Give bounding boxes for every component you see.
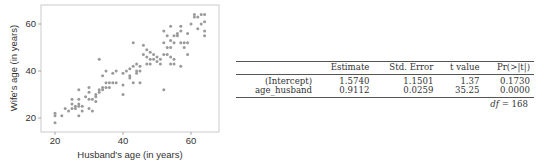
data-point <box>101 74 104 77</box>
data-point <box>166 46 169 49</box>
data-point <box>108 81 111 84</box>
header-t-value: t value <box>437 62 483 75</box>
data-point <box>105 81 108 84</box>
data-point <box>128 67 131 70</box>
data-point <box>125 70 128 73</box>
table-header-row: Estimate Std. Error t value Pr(>|t|) <box>236 62 534 75</box>
data-point <box>200 13 203 16</box>
data-point <box>152 58 155 61</box>
x-tick-label: 20 <box>50 135 61 146</box>
data-point <box>77 88 80 91</box>
data-point <box>186 41 189 44</box>
data-point <box>162 53 165 56</box>
df-symbol: df <box>490 99 499 109</box>
data-point <box>149 63 152 66</box>
data-point <box>149 51 152 54</box>
data-point <box>183 46 186 49</box>
data-point <box>162 88 165 91</box>
data-point <box>71 98 74 101</box>
data-point <box>169 55 172 58</box>
data-point <box>54 114 57 117</box>
data-point <box>179 65 182 68</box>
data-point <box>111 81 114 84</box>
data-point <box>88 86 91 89</box>
data-point <box>122 84 125 87</box>
data-point <box>88 98 91 101</box>
data-point <box>145 63 148 66</box>
data-point <box>71 107 74 110</box>
regression-table: Estimate Std. Error t value Pr(>|t|) (In… <box>236 61 534 98</box>
data-point <box>145 48 148 51</box>
data-point <box>173 63 176 66</box>
cell-p-value: 0.0000 <box>484 86 534 98</box>
data-point <box>152 53 155 56</box>
cell-estimate: 0.9112 <box>316 86 373 98</box>
data-point <box>88 91 91 94</box>
data-point <box>122 72 125 75</box>
data-point <box>142 53 145 56</box>
data-point <box>139 81 142 84</box>
data-point <box>60 114 63 117</box>
data-point <box>115 81 118 84</box>
data-point <box>183 41 186 44</box>
header-estimate: Estimate <box>316 62 373 75</box>
data-point <box>77 98 80 101</box>
x-tick-label: 60 <box>186 135 197 146</box>
cell-std-error: 0.0259 <box>373 86 437 98</box>
data-point <box>64 107 67 110</box>
data-point <box>162 41 165 44</box>
cell-t-value: 35.25 <box>437 86 483 98</box>
data-point <box>105 86 108 89</box>
y-tick-label: 40 <box>25 65 36 76</box>
data-point <box>135 72 138 75</box>
data-point <box>169 25 172 28</box>
data-point <box>88 107 91 110</box>
data-point <box>166 53 169 56</box>
x-axis-ticks: 204060 <box>50 132 197 146</box>
data-point <box>203 34 206 37</box>
data-point <box>149 58 152 61</box>
degrees-of-freedom: df = 168 <box>490 99 528 109</box>
data-point <box>156 55 159 58</box>
header-std-error: Std. Error <box>373 62 437 75</box>
data-point <box>173 41 176 44</box>
data-point <box>91 98 94 101</box>
y-tick-label: 60 <box>25 18 36 29</box>
data-point <box>203 30 206 33</box>
data-point <box>135 63 138 66</box>
y-tick-label: 20 <box>25 112 36 123</box>
data-point <box>179 25 182 28</box>
data-point <box>94 100 97 103</box>
data-point <box>54 121 57 124</box>
data-point <box>98 58 101 61</box>
data-point <box>186 32 189 35</box>
data-point <box>169 46 172 49</box>
data-point <box>203 20 206 23</box>
data-point <box>132 65 135 68</box>
data-point <box>193 16 196 19</box>
data-point <box>101 88 104 91</box>
data-point <box>200 23 203 26</box>
data-point <box>67 110 70 113</box>
y-axis-label: Wife's age (in years) <box>8 25 19 111</box>
data-point <box>186 53 189 56</box>
header-p-value: Pr(>|t|) <box>484 62 534 75</box>
data-point <box>74 107 77 110</box>
scatter-plot: 204060 204060 Husband's age (in years) W… <box>0 0 225 165</box>
data-point <box>196 16 199 19</box>
x-tick-label: 40 <box>118 135 129 146</box>
table-row: age_husband 0.9112 0.0259 35.25 0.0000 <box>236 86 534 98</box>
data-point <box>91 110 94 113</box>
data-point <box>196 27 199 30</box>
data-point <box>77 114 80 117</box>
data-point <box>145 55 148 58</box>
data-point <box>159 63 162 66</box>
row-name: age_husband <box>236 86 316 98</box>
data-point <box>122 93 125 96</box>
data-point <box>139 70 142 73</box>
data-point <box>81 110 84 113</box>
data-point <box>98 91 101 94</box>
data-point <box>179 41 182 44</box>
data-point <box>81 105 84 108</box>
data-point <box>132 41 135 44</box>
